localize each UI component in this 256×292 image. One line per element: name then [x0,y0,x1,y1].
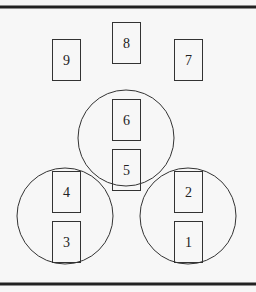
box-label: 8 [123,36,130,51]
box-label: 7 [185,53,192,68]
box-label: 3 [63,235,70,250]
box-2: 2 [175,172,203,213]
diagram-canvas: 987654321 [0,0,256,292]
box-9: 9 [53,40,81,81]
box-label: 6 [123,113,130,128]
box-label: 5 [123,163,130,178]
box-4: 4 [53,172,81,213]
box-5: 5 [113,150,141,191]
top-rule [0,6,256,9]
right-circle [140,168,236,264]
bottom-rule [0,283,256,286]
box-label: 2 [185,185,192,200]
left-circle [17,168,113,264]
box-8: 8 [113,23,141,64]
box-7: 7 [175,40,203,81]
box-label: 1 [185,235,192,250]
box-label: 9 [63,53,70,68]
box-6: 6 [113,100,141,141]
box-1: 1 [175,222,203,263]
box-3: 3 [53,222,81,263]
box-label: 4 [63,185,70,200]
